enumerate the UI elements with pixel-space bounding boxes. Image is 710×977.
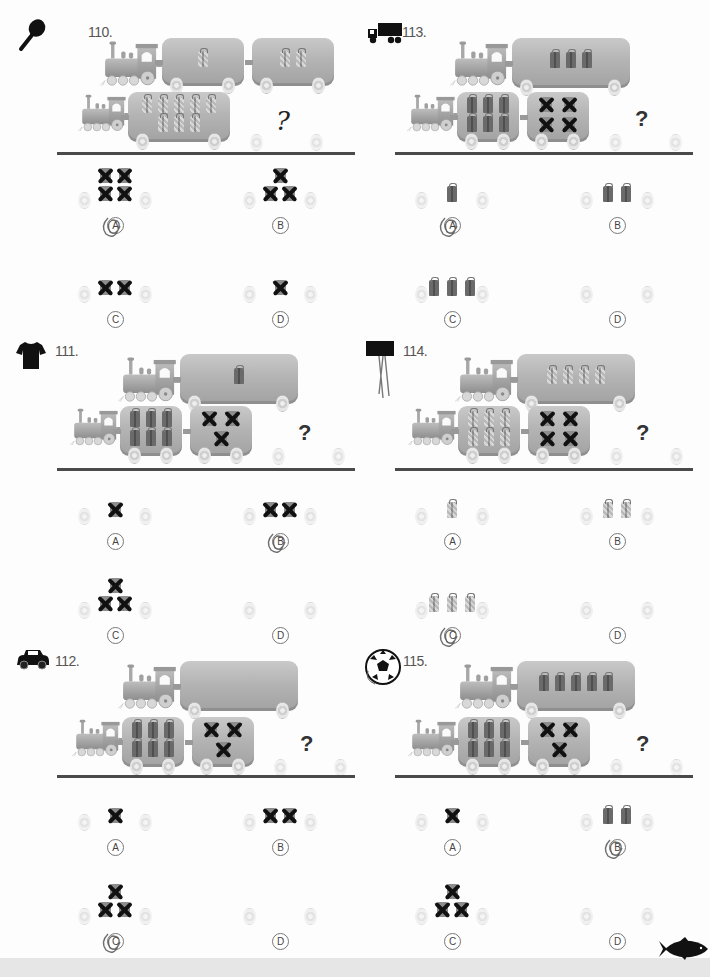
option-label[interactable]: B <box>272 839 289 856</box>
option-cargo <box>85 256 145 296</box>
racket-icon <box>18 18 48 56</box>
dotted-gift-icon <box>468 411 478 427</box>
puzzle-110: 110. ?ABCD <box>0 0 355 330</box>
ground-line <box>395 468 693 471</box>
tshirt-icon <box>16 340 46 374</box>
answer-option-b[interactable]: B <box>572 782 662 862</box>
answer-option-d[interactable]: D <box>572 876 662 956</box>
option-label[interactable]: B <box>609 217 626 234</box>
coupler <box>521 740 529 745</box>
locomotive <box>407 92 463 134</box>
answer-option-a[interactable]: A <box>70 476 160 556</box>
wheel-right <box>498 758 511 775</box>
coupler <box>121 115 129 120</box>
missing-car-wheel <box>332 448 345 465</box>
answer-option-a[interactable]: A <box>70 160 160 240</box>
wheel-left <box>130 758 143 775</box>
option-label[interactable]: C <box>107 311 124 328</box>
option-label[interactable]: B <box>272 533 289 550</box>
crossed-gift-icon <box>262 185 279 202</box>
option-label[interactable]: C <box>107 627 124 644</box>
answer-option-c[interactable]: C <box>70 876 160 956</box>
gift-icon <box>500 722 510 738</box>
answer-option-d[interactable]: D <box>235 876 325 956</box>
answer-option-a[interactable]: A <box>70 782 160 862</box>
answer-option-b[interactable]: B <box>235 160 325 240</box>
dotted-gift-icon <box>484 411 494 427</box>
car-cargo <box>130 721 176 757</box>
car-cargo <box>466 721 512 757</box>
crossed-gift-icon <box>116 185 133 202</box>
option-label[interactable]: D <box>609 627 626 644</box>
option-label[interactable]: D <box>609 311 626 328</box>
option-label[interactable]: A <box>107 839 124 856</box>
answer-option-a[interactable]: A <box>407 782 497 862</box>
answer-option-d[interactable]: D <box>572 570 662 650</box>
answer-option-c[interactable]: C <box>70 570 160 650</box>
answer-option-b[interactable]: B <box>572 160 662 240</box>
answer-option-a[interactable]: A <box>407 160 497 240</box>
option-label[interactable]: D <box>272 311 289 328</box>
cargo-row <box>587 186 647 202</box>
train-car <box>120 406 182 456</box>
option-label[interactable]: D <box>272 933 289 950</box>
answer-option-c[interactable]: C <box>407 876 497 956</box>
option-label[interactable]: C <box>444 933 461 950</box>
answer-option-c[interactable]: C <box>407 570 497 650</box>
car-cargo <box>520 42 622 78</box>
coupler <box>155 60 163 65</box>
crossed-gift-icon <box>539 410 556 427</box>
answer-option-b[interactable]: B <box>572 476 662 556</box>
option-label[interactable]: D <box>272 627 289 644</box>
coupler <box>520 115 528 120</box>
dotted-gift-icon <box>465 596 475 612</box>
ground-line <box>395 775 693 778</box>
option-label[interactable]: A <box>107 533 124 550</box>
cargo-row <box>85 883 145 900</box>
cargo-row <box>250 807 310 824</box>
dotted-gift-icon <box>174 97 184 113</box>
cargo-row <box>85 279 145 296</box>
option-label[interactable]: B <box>609 533 626 550</box>
option-label[interactable]: C <box>107 933 124 950</box>
gift-icon <box>146 411 156 427</box>
option-cargo <box>422 162 482 202</box>
coupler <box>183 429 191 434</box>
car-cargo <box>170 42 236 76</box>
answer-option-c[interactable]: C <box>407 254 497 334</box>
cargo-row <box>85 807 145 824</box>
missing-car-wheel <box>609 134 622 151</box>
crossed-gift-icon <box>97 185 114 202</box>
option-label[interactable]: C <box>444 311 461 328</box>
puzzle-number: 113. <box>402 24 426 40</box>
option-label[interactable]: B <box>609 839 626 856</box>
option-label[interactable]: A <box>444 533 461 550</box>
cargo-row <box>85 595 145 612</box>
answer-option-b[interactable]: B <box>235 476 325 556</box>
option-label[interactable]: A <box>444 217 461 234</box>
answer-option-a[interactable]: A <box>407 476 497 556</box>
answer-option-d[interactable]: D <box>235 570 325 650</box>
crossed-gift-icon <box>281 807 298 824</box>
puzzle-114: 114. ?ABCD <box>355 330 710 660</box>
train-car <box>190 406 252 456</box>
answer-option-d[interactable]: D <box>572 254 662 334</box>
dotted-gift-icon <box>190 97 200 113</box>
option-label[interactable]: D <box>609 933 626 950</box>
option-label[interactable]: B <box>272 217 289 234</box>
wheel-right <box>222 77 235 94</box>
option-label[interactable]: C <box>444 627 461 644</box>
dotted-gift-icon <box>447 596 457 612</box>
car-cargo <box>200 721 246 757</box>
answer-option-d[interactable]: D <box>235 254 325 334</box>
train-car <box>458 406 520 456</box>
train-car <box>180 661 298 711</box>
answer-option-b[interactable]: B <box>235 782 325 862</box>
gift-icon <box>468 741 478 757</box>
crossed-gift-icon <box>434 901 451 918</box>
option-label[interactable]: A <box>107 217 124 234</box>
answer-option-c[interactable]: C <box>70 254 160 334</box>
train-car <box>180 354 298 404</box>
option-label[interactable]: A <box>444 839 461 856</box>
crossed-gift-icon <box>224 410 241 427</box>
